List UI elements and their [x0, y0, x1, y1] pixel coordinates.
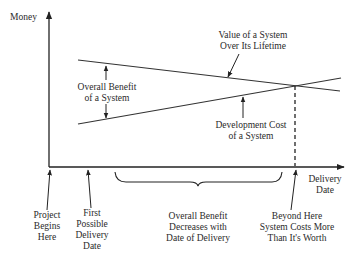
beyond-here-arrow [291, 170, 296, 210]
first-delivery-label: First Possible Delivery Date [72, 208, 112, 252]
beyond-here-label: Beyond Here System Costs More Than It's … [254, 211, 340, 244]
project-begins-arrow [47, 170, 50, 210]
y-axis-label: Money [10, 12, 37, 23]
benefit-brace [115, 172, 282, 186]
x-axis-label: Delivery Date [300, 174, 350, 196]
benefit-decreases-label: Overall Benefit Decreases with Date of D… [148, 211, 248, 244]
value-curve-label: Value of a System Over Its Lifetime [198, 30, 308, 52]
overall-benefit-label: Overall Benefit of a System [66, 82, 148, 104]
cost-curve-label: Development Cost of a System [196, 120, 306, 142]
value-pointer-arrow [228, 54, 239, 77]
first-delivery-arrow [88, 170, 91, 208]
project-begins-label: Project Begins Here [26, 210, 68, 243]
